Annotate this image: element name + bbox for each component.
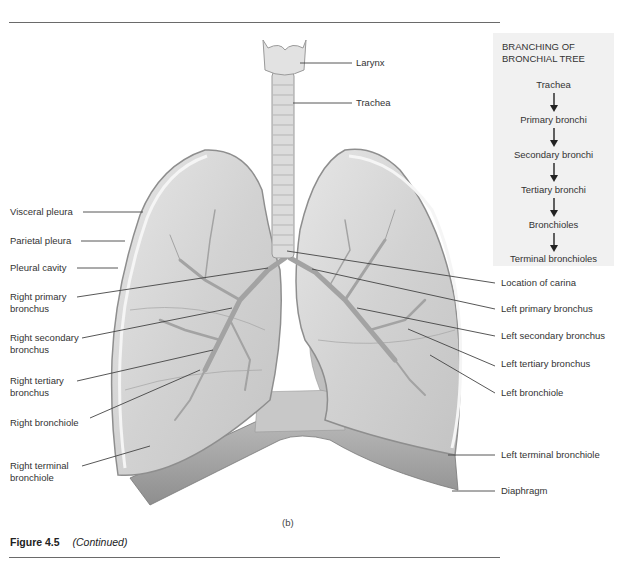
branching-sidebox: BRANCHING OF BRONCHIAL TREE Trachea Prim…	[493, 33, 614, 266]
bottom-rule	[9, 557, 500, 558]
trachea	[272, 72, 294, 258]
label-left-tertiary-bronchus: Left tertiary bronchus	[501, 358, 590, 370]
step-secondary-bronchi: Secondary bronchi	[493, 149, 614, 161]
label-diaphragm: Diaphragm	[501, 485, 547, 497]
caption-number: Figure 4.5	[10, 536, 60, 548]
label-visceral-pleura: Visceral pleura	[10, 206, 73, 218]
label-line: Right terminal	[10, 460, 69, 472]
arrow-down-icon	[549, 233, 559, 253]
label-right-bronchiole: Right bronchiole	[10, 417, 79, 429]
panel-label: (b)	[282, 517, 294, 528]
label-line: Right secondary	[10, 332, 79, 344]
label-line: bronchiole	[10, 472, 69, 484]
label-left-bronchiole: Left bronchiole	[501, 387, 563, 399]
label-pleural-cavity: Pleural cavity	[10, 262, 67, 274]
label-right-tertiary-bronchus: Right tertiary bronchus	[10, 375, 64, 399]
figure-caption: Figure 4.5 (Continued)	[10, 536, 127, 548]
label-line: bronchus	[10, 387, 64, 399]
sidebox-title-line: BRONCHIAL TREE	[502, 53, 585, 65]
label-parietal-pleura: Parietal pleura	[10, 235, 71, 247]
sidebox-title-line: BRANCHING OF	[502, 41, 585, 53]
larynx	[263, 40, 306, 75]
step-trachea: Trachea	[493, 79, 614, 91]
step-terminal-bronchioles: Terminal bronchioles	[493, 253, 614, 265]
sidebox-title: BRANCHING OF BRONCHIAL TREE	[502, 41, 585, 65]
label-line: Right tertiary	[10, 375, 64, 387]
label-right-terminal-bronchiole: Right terminal bronchiole	[10, 460, 69, 484]
label-right-primary-bronchus: Right primary bronchus	[10, 291, 67, 315]
caption-note: (Continued)	[73, 536, 128, 548]
label-left-terminal-bronchiole: Left terminal bronchiole	[501, 449, 600, 461]
arrow-down-icon	[549, 163, 559, 183]
step-tertiary-bronchi: Tertiary bronchi	[493, 184, 614, 196]
label-line: Right primary	[10, 291, 67, 303]
step-bronchioles: Bronchioles	[493, 219, 614, 231]
label-line: bronchus	[10, 303, 67, 315]
arrow-down-icon	[549, 93, 559, 113]
label-right-secondary-bronchus: Right secondary bronchus	[10, 332, 79, 356]
label-location-of-carina: Location of carina	[501, 277, 576, 289]
label-left-secondary-bronchus: Left secondary bronchus	[501, 330, 605, 342]
label-left-primary-bronchus: Left primary bronchus	[501, 303, 593, 315]
label-larynx: Larynx	[356, 57, 385, 69]
label-line: bronchus	[10, 344, 79, 356]
step-primary-bronchi: Primary bronchi	[493, 114, 614, 126]
arrow-down-icon	[549, 128, 559, 148]
arrow-down-icon	[549, 198, 559, 218]
label-trachea: Trachea	[356, 97, 391, 109]
